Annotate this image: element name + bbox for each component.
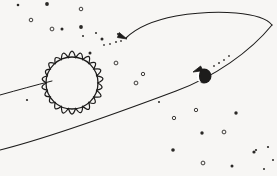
trail-dot-upper-1 <box>109 43 111 45</box>
star-dot-7 <box>82 35 84 37</box>
star-dot-9 <box>101 38 104 41</box>
star-ring-13 <box>141 72 144 75</box>
star-dot-29 <box>158 101 160 103</box>
trail-dot-upper-2 <box>115 41 117 43</box>
diagram-canvas <box>0 0 277 176</box>
sun-corona-rays <box>42 51 103 114</box>
orbit-dashed-trail-upper <box>103 40 122 46</box>
star-ring-2 <box>79 7 83 11</box>
star-dot-5 <box>61 28 64 31</box>
sun-core-circle <box>46 57 98 109</box>
star-dot-19 <box>200 131 203 134</box>
orbit-direction-arrows <box>117 33 203 72</box>
trail-dot-upper-0 <box>103 44 105 46</box>
star-ring-17 <box>172 116 175 119</box>
star-dot-15 <box>26 99 28 101</box>
star-ring-14 <box>134 81 138 85</box>
trail-dot-lower-0 <box>213 65 215 67</box>
trail-dot-lower-3 <box>228 55 230 57</box>
star-field <box>17 2 274 170</box>
trail-dot-lower-1 <box>218 62 220 64</box>
orbit-arrow-right <box>193 66 203 72</box>
trail-dot-upper-3 <box>120 40 122 42</box>
orbit-left-segment <box>0 81 52 95</box>
star-dot-28 <box>272 159 274 161</box>
star-dot-26 <box>231 165 234 168</box>
star-ring-16 <box>194 108 197 111</box>
star-dot-0 <box>17 4 20 7</box>
star-dot-6 <box>79 25 83 29</box>
star-dot-27 <box>263 168 265 170</box>
star-ring-3 <box>29 18 33 22</box>
star-dot-23 <box>252 150 255 153</box>
orbit-diagram <box>0 0 277 176</box>
star-dot-8 <box>95 32 97 34</box>
star-dot-24 <box>255 149 257 151</box>
star-ring-4 <box>50 27 54 31</box>
star-dot-18 <box>234 111 237 114</box>
star-ring-12 <box>114 61 118 65</box>
orbit-lower-arc <box>0 25 272 150</box>
star-dot-25 <box>267 146 269 148</box>
star-dot-10 <box>117 33 119 35</box>
star-dot-1 <box>45 2 49 6</box>
trail-dot-lower-2 <box>223 59 225 61</box>
star-dot-11 <box>89 52 92 55</box>
star-ring-22 <box>201 161 205 165</box>
orbit-upper-arc <box>126 12 272 38</box>
star-dot-21 <box>171 148 175 152</box>
star-ring-20 <box>222 130 226 134</box>
